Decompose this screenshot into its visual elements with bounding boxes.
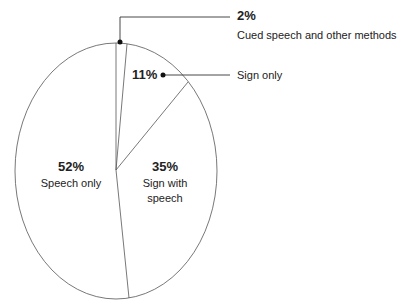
label-speech-text: Speech only — [31, 177, 111, 189]
label-signspeech-line2: speech — [135, 192, 195, 204]
callout-line-cued — [120, 17, 230, 42]
label-cued-pct: 2% — [237, 9, 256, 23]
callout-dot-signonly — [161, 73, 166, 78]
pie-chart — [0, 0, 406, 306]
callout-dot-cued — [118, 40, 123, 45]
label-signonly-text: Sign only — [237, 69, 282, 81]
label-signonly-pct: 11% — [132, 68, 157, 82]
label-signspeech-line1: Sign with — [135, 177, 195, 189]
label-cued-text: Cued speech and other methods — [237, 29, 397, 41]
label-speech-pct: 52% — [36, 160, 106, 174]
label-signspeech-pct: 35% — [140, 160, 190, 174]
